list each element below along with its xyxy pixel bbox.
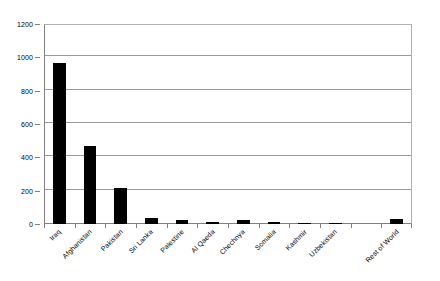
y-tick-label: 0: [29, 221, 33, 228]
x-tick-label: Somalia: [254, 228, 278, 252]
x-tick-label: Chechnya: [218, 228, 247, 257]
x-tick-label: Pakistan: [99, 228, 124, 253]
x-tick-label: Sri Lanka: [128, 228, 155, 255]
y-tick-mark: [35, 191, 40, 192]
y-tick-mark: [35, 91, 40, 92]
x-tick-label: Rest of World: [364, 228, 400, 264]
y-tick-label: 800: [21, 87, 33, 94]
x-tick-label: Iraq: [49, 228, 63, 242]
x-tick-label: Palestine: [159, 228, 186, 255]
y-tick-label: 600: [21, 121, 33, 128]
y-tick-mark: [35, 224, 40, 225]
y-tick-mark: [35, 57, 40, 58]
bar: [53, 63, 66, 224]
bar: [114, 188, 127, 224]
y-tick-label: 1000: [17, 54, 33, 61]
y-tick-mark: [35, 24, 40, 25]
bar-chart: 020040060080010001200 IraqAfghanistanPak…: [0, 0, 440, 281]
x-axis: IraqAfghanistanPakistanSri LankaPalestin…: [44, 228, 412, 281]
y-tick-label: 1200: [17, 21, 33, 28]
bars-layer: [44, 24, 412, 224]
y-tick-label: 400: [21, 154, 33, 161]
x-tick-label: Uzbekistan: [308, 228, 339, 259]
y-tick-label: 200: [21, 187, 33, 194]
y-axis: 020040060080010001200: [0, 24, 40, 224]
x-tick-label: Al Qaeda: [189, 228, 216, 255]
y-tick-mark: [35, 124, 40, 125]
y-tick-mark: [35, 157, 40, 158]
x-tick-label: Kashmir: [284, 228, 308, 252]
bar: [84, 146, 97, 224]
x-tick-label: Afghanistan: [61, 228, 94, 261]
